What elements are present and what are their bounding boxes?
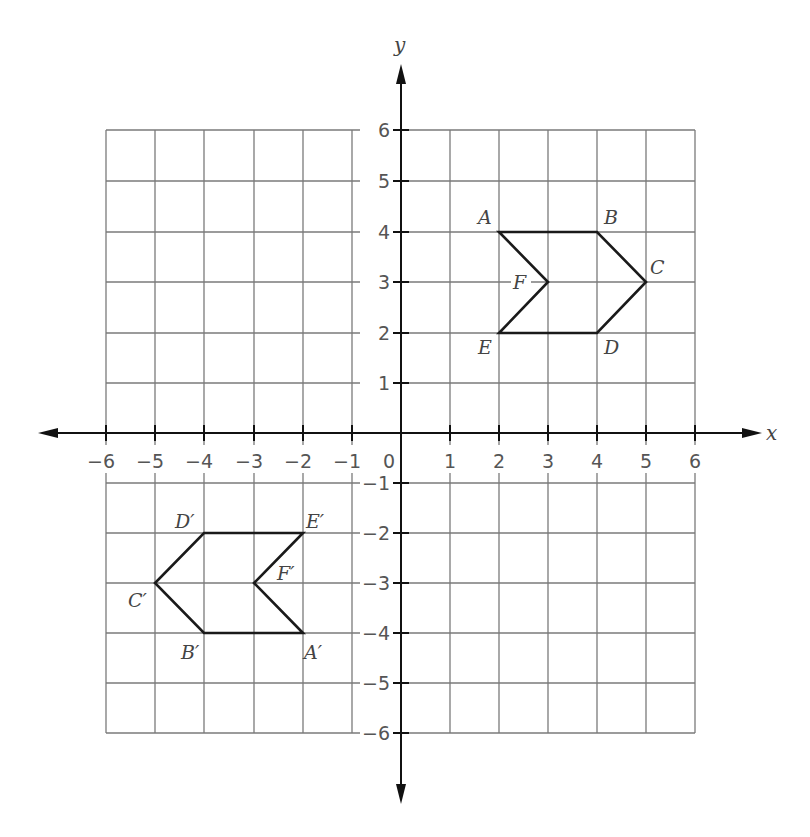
origin-label: 0 xyxy=(383,450,395,472)
vertex-label-c: C xyxy=(650,256,665,278)
coordinate-plane: y x −6 −5 −4 −3 −2 −1 0 1 2 3 4 5 6 6 5 … xyxy=(0,0,810,837)
vertex-label-a: A xyxy=(476,206,492,228)
vertex-label-a-prime: A′ xyxy=(302,641,323,663)
vertex-label-f: F xyxy=(512,271,527,293)
y-tick-label: −2 xyxy=(362,522,390,544)
x-axis-right-arrow-icon xyxy=(742,428,762,438)
y-tick-label: 5 xyxy=(378,170,390,192)
x-tick-label: 6 xyxy=(689,450,701,472)
x-tick-label: 4 xyxy=(591,450,603,472)
vertex-label-f-prime: F′ xyxy=(276,562,295,584)
y-tick-label: −6 xyxy=(362,722,390,744)
y-tick-label: −4 xyxy=(362,622,390,644)
x-tick-label: 1 xyxy=(444,450,456,472)
y-axis-down-arrow-icon xyxy=(396,784,406,804)
x-tick-label: 2 xyxy=(493,450,505,472)
y-tick-label: −5 xyxy=(362,672,390,694)
vertex-label-c-prime: C′ xyxy=(128,589,148,611)
x-tick-label: −3 xyxy=(235,450,263,472)
y-tick-label: −3 xyxy=(362,572,390,594)
y-axis-up-arrow-icon xyxy=(396,64,406,84)
x-tick-label: 3 xyxy=(542,450,554,472)
x-tick-label: −1 xyxy=(333,450,361,472)
x-tick-label: −6 xyxy=(87,450,115,472)
y-tick-label: 2 xyxy=(378,322,390,344)
y-tick-label: 1 xyxy=(378,372,390,394)
x-tick-label: −2 xyxy=(284,450,312,472)
x-tick-label: −5 xyxy=(136,450,164,472)
x-axis-left-arrow-icon xyxy=(38,428,58,438)
x-tick-label: 5 xyxy=(640,450,652,472)
vertex-label-e: E xyxy=(477,336,492,358)
y-tick-label: 3 xyxy=(378,271,390,293)
vertex-label-d: D xyxy=(603,336,619,358)
y-axis-label: y xyxy=(393,33,406,57)
y-tick-label: 4 xyxy=(378,221,390,243)
y-tick-label: 6 xyxy=(378,119,390,141)
x-tick-label: −4 xyxy=(185,450,213,472)
vertex-label-b: B xyxy=(603,206,618,228)
vertex-label-b-prime: B′ xyxy=(180,641,200,663)
vertex-label-d-prime: D′ xyxy=(174,510,195,532)
x-axis-label: x xyxy=(766,421,777,445)
vertex-label-e-prime: E′ xyxy=(305,510,325,532)
y-tick-label: −1 xyxy=(362,472,390,494)
